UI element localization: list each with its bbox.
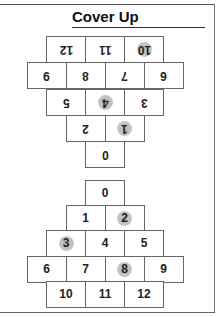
cell-number: 7 [117, 68, 132, 83]
cell-number: 1 [78, 211, 93, 226]
cell-number: 4 [98, 236, 113, 251]
cell-number: 2 [78, 121, 93, 136]
board-cell[interactable]: 9 [27, 62, 67, 89]
title-text: Cover Up [72, 8, 139, 26]
board-cell[interactable]: 4 [85, 230, 125, 257]
board-cell[interactable]: 6 [144, 62, 184, 89]
board-cell[interactable]: 0 [85, 180, 125, 207]
board-cell[interactable]: 8 [66, 62, 106, 89]
board-cell[interactable]: 4 [85, 89, 125, 116]
cell-number: 9 [39, 68, 54, 83]
cell-number: 7 [78, 262, 93, 277]
cell-number: 11 [98, 287, 113, 302]
frame-bottom-border [0, 312, 215, 313]
cell-number: 6 [39, 262, 54, 277]
covered-number: 8 [117, 262, 132, 277]
page-title: Cover Up [72, 8, 205, 26]
board-cell[interactable]: 10 [46, 281, 86, 308]
covered-number: 3 [59, 236, 74, 251]
cell-number: 12 [137, 287, 152, 302]
board-cell[interactable]: 5 [46, 89, 86, 116]
covered-number: 2 [117, 211, 132, 226]
covered-number: 4 [98, 95, 113, 110]
frame-top-border [0, 4, 215, 5]
board-cell[interactable]: 10 [124, 36, 164, 63]
cell-number: 0 [98, 147, 113, 162]
covered-number: 1 [117, 121, 132, 136]
cell-number: 8 [78, 68, 93, 83]
board-cell[interactable]: 0 [85, 141, 125, 168]
cell-number: 12 [59, 42, 74, 57]
cell-number: 6 [156, 68, 171, 83]
board-cell[interactable]: 6 [27, 256, 67, 283]
frame-right-border [214, 4, 215, 313]
board-cell[interactable]: 5 [124, 230, 164, 257]
board-cell[interactable]: 3 [46, 230, 86, 257]
board-cell[interactable]: 7 [66, 256, 106, 283]
title-underline [72, 27, 205, 28]
board-cell[interactable]: 3 [124, 89, 164, 116]
cell-number: 3 [137, 95, 152, 110]
board-cell[interactable]: 1 [66, 205, 106, 232]
board-cell[interactable]: 8 [105, 256, 145, 283]
board-cell[interactable]: 9 [144, 256, 184, 283]
board-cell[interactable]: 11 [85, 281, 125, 308]
cell-number: 0 [98, 186, 113, 201]
board-cell[interactable]: 2 [105, 205, 145, 232]
board-cell[interactable]: 7 [105, 62, 145, 89]
board-cell[interactable]: 12 [46, 36, 86, 63]
cell-number: 10 [59, 287, 74, 302]
cell-number: 5 [59, 95, 74, 110]
board-cell[interactable]: 12 [124, 281, 164, 308]
board-cell[interactable]: 11 [85, 36, 125, 63]
board-cell[interactable]: 2 [66, 115, 106, 142]
cell-number: 9 [156, 262, 171, 277]
cell-number: 11 [98, 42, 113, 57]
board-cell[interactable]: 1 [105, 115, 145, 142]
cell-number: 5 [137, 236, 152, 251]
covered-number: 10 [137, 42, 152, 57]
